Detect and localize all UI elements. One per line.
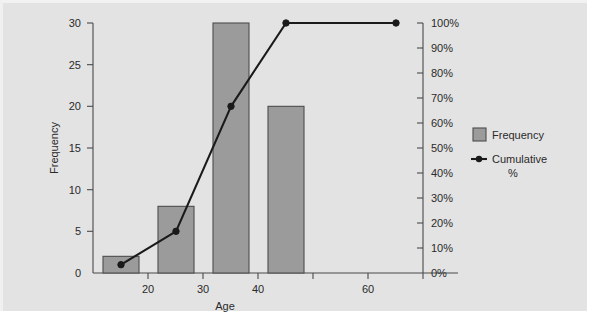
right-tick-label-100: 100%	[431, 17, 459, 29]
bars-group	[103, 23, 304, 273]
x-tick-label-60: 60	[362, 283, 374, 295]
right-tick-label-10: 10%	[431, 242, 453, 254]
left-axis: 30 25 20 15 10 5 0 Frequency	[48, 17, 93, 279]
cumulative-point-3[interactable]	[228, 103, 234, 109]
right-tick-label-80: 80%	[431, 67, 453, 79]
bar-bin-4[interactable]	[268, 106, 304, 273]
x-tick-label-20: 20	[142, 283, 154, 295]
left-tick-label-25: 25	[69, 59, 81, 71]
legend-label-cumulative-line1[interactable]: Cumulative	[492, 153, 547, 165]
cumulative-point-1[interactable]	[118, 262, 124, 268]
x-tick-label-40: 40	[252, 283, 264, 295]
x-tick-label-30: 30	[197, 283, 209, 295]
bottom-axis: 20 30 40 60 Age	[93, 273, 458, 312]
left-tick-label-0: 0	[75, 267, 81, 279]
left-tick-label-15: 15	[69, 142, 81, 154]
right-tick-label-70: 70%	[431, 92, 453, 104]
cumulative-point-2[interactable]	[173, 228, 179, 234]
legend-marker-cumulative	[476, 156, 482, 162]
right-tick-label-40: 40%	[431, 167, 453, 179]
right-tick-label-60: 60%	[431, 117, 453, 129]
right-tick-label-0: 0%	[431, 267, 447, 279]
left-tick-label-5: 5	[75, 225, 81, 237]
pareto-chart: 30 25 20 15 10 5 0 Frequency 20 30	[3, 3, 590, 314]
chart-panel: 30 25 20 15 10 5 0 Frequency 20 30	[0, 0, 587, 311]
right-tick-label-50: 50%	[431, 142, 453, 154]
y-axis-title: Frequency	[48, 122, 60, 174]
left-tick-label-30: 30	[69, 17, 81, 29]
right-axis: 100% 90% 80% 70% 60% 50% 40% 30% 20% 10%…	[417, 17, 459, 279]
bar-bin-3[interactable]	[213, 23, 249, 273]
chart-root: 30 25 20 15 10 5 0 Frequency 20 30	[0, 0, 595, 322]
legend-swatch-frequency	[473, 128, 486, 141]
cumulative-point-4[interactable]	[283, 20, 289, 26]
right-tick-label-20: 20%	[431, 217, 453, 229]
left-tick-label-20: 20	[69, 100, 81, 112]
legend-label-cumulative-line2[interactable]: %	[508, 167, 518, 179]
right-tick-label-90: 90%	[431, 42, 453, 54]
right-tick-label-30: 30%	[431, 192, 453, 204]
x-axis-title: Age	[215, 300, 235, 312]
chart-legend: Frequency Cumulative %	[471, 128, 547, 179]
legend-label-frequency[interactable]: Frequency	[492, 129, 544, 141]
cumulative-point-5[interactable]	[393, 20, 399, 26]
left-tick-label-10: 10	[69, 184, 81, 196]
